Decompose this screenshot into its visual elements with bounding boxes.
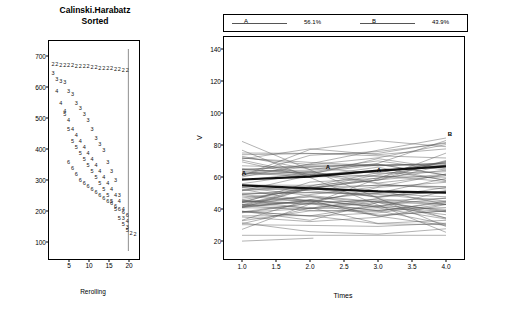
svg-text:3: 3 xyxy=(67,88,70,94)
svg-text:2: 2 xyxy=(122,67,125,73)
svg-text:5: 5 xyxy=(67,126,70,132)
cluster-label-b: B xyxy=(448,131,452,137)
left-y-tick-mark xyxy=(46,149,49,150)
svg-text:4: 4 xyxy=(102,174,105,180)
svg-text:2: 2 xyxy=(55,61,58,67)
cluster-label-a2: A xyxy=(326,164,330,170)
left-y-tick-label: 700 xyxy=(35,53,46,60)
svg-text:5: 5 xyxy=(83,156,86,162)
svg-text:2: 2 xyxy=(90,64,93,70)
svg-text:6: 6 xyxy=(87,183,90,189)
left-data-points: 2222222222222222222222333333333333333333… xyxy=(49,41,139,259)
right-x-tick-label: 2.0 xyxy=(305,263,314,270)
left-y-tick-mark xyxy=(46,242,49,243)
left-y-tick-label: 100 xyxy=(35,239,46,246)
svg-text:2: 2 xyxy=(114,66,117,72)
legend-label-a: 56.1% xyxy=(304,19,321,25)
svg-text:3: 3 xyxy=(59,78,62,84)
svg-text:5: 5 xyxy=(71,138,74,144)
right-y-tick-label: 80 xyxy=(214,142,221,149)
svg-text:2: 2 xyxy=(98,65,101,71)
svg-text:2: 2 xyxy=(83,63,86,69)
right-x-tick-mark xyxy=(242,259,243,262)
left-y-tick-label: 500 xyxy=(35,115,46,122)
svg-text:2: 2 xyxy=(133,231,136,237)
svg-text:6: 6 xyxy=(90,186,93,192)
svg-text:6: 6 xyxy=(94,189,97,195)
svg-text:6: 6 xyxy=(67,159,70,165)
svg-text:5: 5 xyxy=(87,162,90,168)
svg-text:5: 5 xyxy=(122,221,125,227)
svg-text:3: 3 xyxy=(106,159,109,165)
svg-text:2: 2 xyxy=(118,66,121,72)
svg-text:2: 2 xyxy=(130,230,133,236)
svg-text:4: 4 xyxy=(87,150,90,156)
svg-text:5: 5 xyxy=(79,150,82,156)
svg-text:4: 4 xyxy=(67,117,70,123)
right-y-tick-label: 100 xyxy=(210,110,221,117)
svg-text:2: 2 xyxy=(59,62,62,68)
svg-text:2: 2 xyxy=(102,65,105,71)
right-x-tick-mark xyxy=(310,259,311,262)
svg-text:6: 6 xyxy=(98,192,101,198)
left-y-tick-mark xyxy=(46,56,49,57)
left-chart-title: Calinski.Harabatz Sorted xyxy=(0,5,190,27)
svg-text:5: 5 xyxy=(118,215,121,221)
left-y-tick-mark xyxy=(46,87,49,88)
svg-text:5: 5 xyxy=(63,111,66,117)
svg-text:4: 4 xyxy=(83,144,86,150)
svg-text:6: 6 xyxy=(71,165,74,171)
svg-text:3: 3 xyxy=(71,91,74,97)
right-y-tick-mark xyxy=(221,113,224,114)
calinski-harabatz-chart: Calinski.Harabatz Sorted 100 200 300 400… xyxy=(0,0,190,315)
svg-text:2: 2 xyxy=(67,62,70,68)
svg-text:3: 3 xyxy=(110,168,113,174)
svg-text:2: 2 xyxy=(63,62,66,68)
right-y-tick-label: 60 xyxy=(214,174,221,181)
right-x-tick-mark xyxy=(412,259,413,262)
svg-text:2: 2 xyxy=(110,65,113,71)
right-x-axis-label: Times xyxy=(223,292,463,299)
left-chart-title-line1: Calinski.Harabatz xyxy=(60,5,131,15)
svg-text:4: 4 xyxy=(98,168,101,174)
left-y-tick-mark xyxy=(46,118,49,119)
right-x-tick-label: 4.0 xyxy=(441,263,450,270)
left-x-tick-label: 10 xyxy=(85,262,92,269)
right-y-tick-mark xyxy=(221,177,224,178)
svg-text:3: 3 xyxy=(75,100,78,106)
right-y-axis-label: V xyxy=(196,135,203,140)
svg-text:3: 3 xyxy=(79,105,82,111)
right-plot-area: 20 40 60 80 100 120 140 1.0 1.5 2.0 2.5 … xyxy=(223,36,465,260)
svg-text:4: 4 xyxy=(71,126,74,132)
svg-text:6: 6 xyxy=(75,171,78,177)
svg-text:2: 2 xyxy=(106,65,109,71)
svg-text:6: 6 xyxy=(83,180,86,186)
right-x-tick-label: 1.0 xyxy=(237,263,246,270)
left-x-axis-label: Rerolling xyxy=(48,288,138,295)
right-y-tick-label: 120 xyxy=(210,78,221,85)
left-y-tick-label: 400 xyxy=(35,146,46,153)
svg-text:4: 4 xyxy=(59,100,62,106)
right-x-tick-mark xyxy=(378,259,379,262)
svg-text:2: 2 xyxy=(87,63,90,69)
svg-text:5: 5 xyxy=(94,174,97,180)
svg-text:4: 4 xyxy=(90,156,93,162)
svg-text:3: 3 xyxy=(55,76,58,82)
svg-text:2: 2 xyxy=(71,62,74,68)
svg-text:2: 2 xyxy=(75,63,78,69)
right-y-tick-mark xyxy=(221,81,224,82)
right-x-tick-mark xyxy=(344,259,345,262)
svg-text:6: 6 xyxy=(106,198,109,204)
svg-text:3: 3 xyxy=(94,135,97,141)
right-y-tick-label: 20 xyxy=(214,238,221,245)
svg-text:6: 6 xyxy=(122,209,125,215)
svg-text:3: 3 xyxy=(98,141,101,147)
left-y-tick-label: 600 xyxy=(35,84,46,91)
right-y-tick-label: 140 xyxy=(210,46,221,53)
left-y-tick-mark xyxy=(46,211,49,212)
svg-text:5: 5 xyxy=(90,168,93,174)
right-y-tick-mark xyxy=(221,241,224,242)
legend: A 56.1% B 43.9% xyxy=(223,14,468,32)
svg-text:6: 6 xyxy=(110,200,113,206)
svg-text:6: 6 xyxy=(114,203,117,209)
